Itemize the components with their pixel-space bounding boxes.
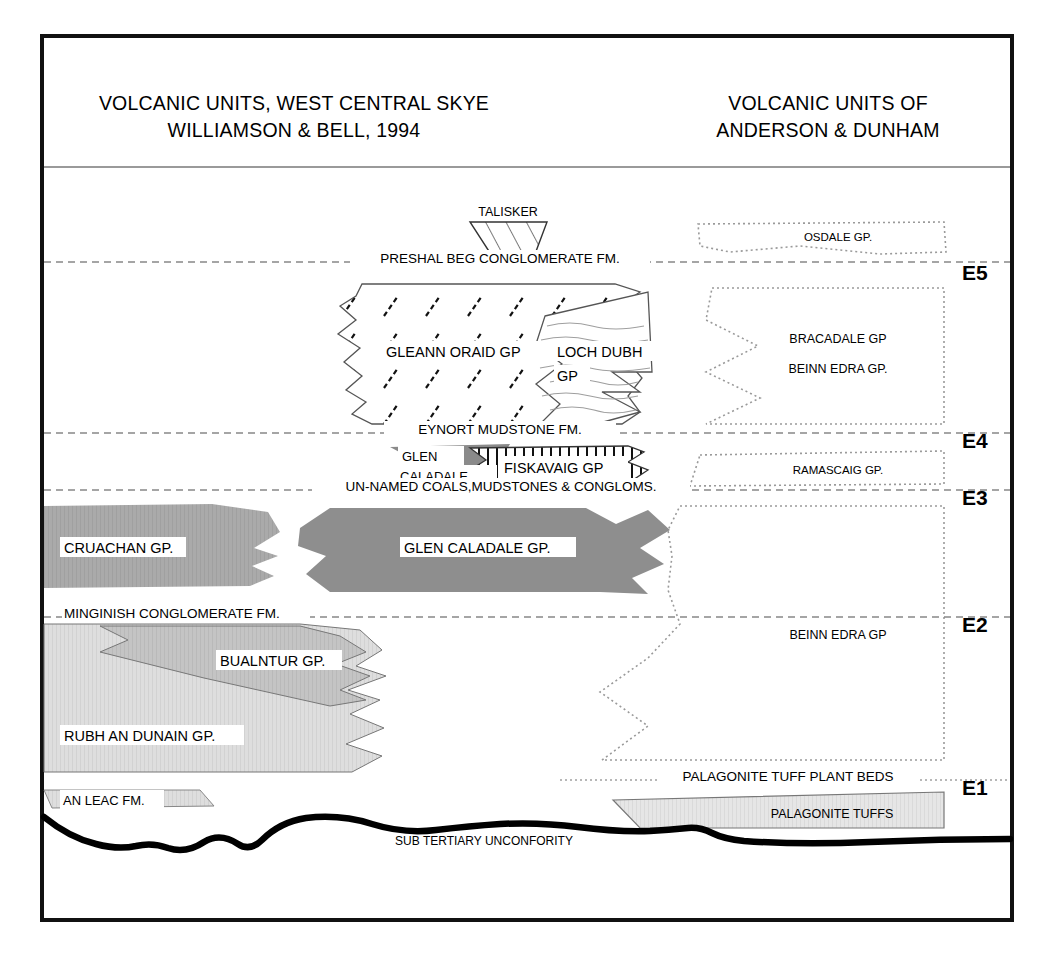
boundary-label-unnamed-coals-group: UN-NAMED COALS,MUDSTONES & CONGLOMS. (312, 478, 690, 496)
gleann-oraid-gp-label-group: GLEANN ORAID GP (381, 341, 556, 361)
palagonite-tuffs-label-group: PALAGONITE TUFFS (771, 807, 893, 821)
bracadale-gp-label: BRACADALE GP (789, 332, 886, 346)
talisker-label: TALISKER (478, 205, 538, 219)
boundary-label-minginish-group: MINGINISH CONGLOMERATE FM. (62, 605, 310, 623)
an-leac-fm-label: AN LEAC FM. (63, 793, 145, 808)
loch-dubh-gp-label-line2: GP (557, 368, 578, 384)
ramascaig-gp-label: RAMASCAIG GP. (793, 464, 884, 476)
fiskavaig-gp-label-group: FISKAVAIG GP (500, 456, 628, 478)
diagram-canvas: VOLCANIC UNITS, WEST CENTRAL SKYE WILLIA… (0, 0, 1051, 955)
gleann-oraid-gp-label: GLEANN ORAID GP (386, 344, 521, 360)
stratigraphic-diagram: VOLCANIC UNITS, WEST CENTRAL SKYE WILLIA… (0, 0, 1051, 955)
era-label-e4: E4 (962, 429, 988, 452)
rubh-an-dunain-gp-label: RUBH AN DUNAIN GP. (64, 728, 215, 744)
osdale-gp-label: OSDALE GP. (804, 231, 872, 243)
cruachan-gp-label-group: CRUACHAN GP. (60, 537, 186, 557)
right-title-line2: ANDERSON & DUNHAM (716, 119, 939, 141)
un-named-coals-label: UN-NAMED COALS,MUDSTONES & CONGLOMS. (345, 479, 656, 494)
glen-caladale-upper-label-line1: GLEN (402, 449, 437, 464)
an-leac-fm-label-group: AN LEAC FM. (60, 790, 164, 809)
glen-caladale-gp-label-group: GLEN CALADALE GP. (400, 537, 576, 557)
boundary-label-palagonite-plant-beds-group: PALAGONITE TUFF PLANT BEDS (658, 768, 920, 785)
bualntur-gp-label-group: BUALNTUR GP. (216, 650, 342, 670)
palagonite-tuff-plant-beds-label: PALAGONITE TUFF PLANT BEDS (683, 769, 894, 784)
era-label-e2: E2 (962, 613, 988, 636)
preshal-beg-label: PRESHAL BEG CONGLOMERATE FM. (380, 251, 619, 266)
right-title-line1: VOLCANIC UNITS OF (728, 92, 928, 114)
loch-dubh-gp-label-line1: LOCH DUBH (557, 344, 642, 360)
palagonite-tuffs-label: PALAGONITE TUFFS (771, 807, 893, 821)
eynort-mudstone-label: EYNORT MUDSTONE FM. (418, 422, 582, 437)
bualntur-gp-label: BUALNTUR GP. (220, 653, 325, 669)
minginish-label: MINGINISH CONGLOMERATE FM. (64, 606, 280, 621)
era-label-e3: E3 (962, 486, 988, 509)
boundary-label-preshal-beg-group: PRESHAL BEG CONGLOMERATE FM. (350, 250, 650, 268)
beinn-edra-gp-upper-label: BEINN EDRA GP. (788, 362, 887, 376)
fiskavaig-gp-label: FISKAVAIG GP (504, 460, 603, 476)
sub-tertiary-unconformity-label: SUB TERTIARY UNCONFORITY (395, 834, 573, 848)
boundary-label-eynort-group: EYNORT MUDSTONE FM. (384, 421, 616, 439)
beinn-edra-gp-label: BEINN EDRA GP (789, 628, 886, 642)
era-label-e5: E5 (962, 261, 988, 284)
cruachan-gp-label: CRUACHAN GP. (64, 540, 173, 556)
rubh-an-dunain-gp-label-group: RUBH AN DUNAIN GP. (60, 725, 244, 745)
era-label-e1: E1 (962, 776, 988, 799)
left-title-line1: VOLCANIC UNITS, WEST CENTRAL SKYE (99, 92, 489, 114)
glen-caladale-gp-label: GLEN CALADALE GP. (404, 540, 550, 556)
left-title-line2: WILLIAMSON & BELL, 1994 (168, 119, 421, 141)
